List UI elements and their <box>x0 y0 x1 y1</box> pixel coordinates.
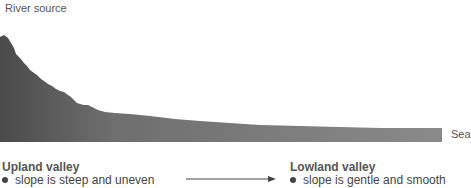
river-long-profile <box>0 0 471 150</box>
profile-shape <box>0 35 442 142</box>
upland-bullet: slope is steep and uneven <box>2 173 154 187</box>
arrow-icon <box>186 175 276 183</box>
bullet-icon <box>2 177 8 183</box>
lowland-heading: Lowland valley <box>290 160 375 174</box>
lowland-bullet: slope is gentle and smooth <box>290 173 446 187</box>
upland-heading: Upland valley <box>2 160 79 174</box>
bullet-icon <box>290 177 296 183</box>
sea-label: Sea <box>451 128 471 140</box>
